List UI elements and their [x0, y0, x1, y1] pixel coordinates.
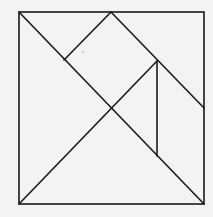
segment-diag-anti [19, 61, 157, 204]
segment-top-apex-left [64, 12, 111, 60]
tangram-segments [19, 12, 204, 204]
paper-speck [82, 51, 84, 53]
tangram-diagram [0, 0, 213, 217]
